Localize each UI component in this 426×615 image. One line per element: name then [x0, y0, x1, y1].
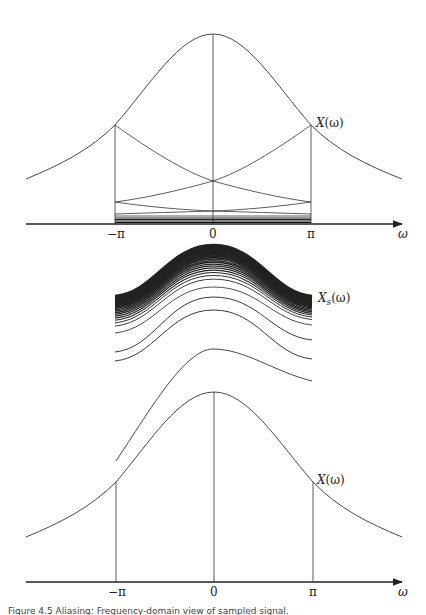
- middle-curve-label: Xs(ω): [317, 291, 350, 307]
- aliasing-figure: X(ω) −π 0 π ω Xs(ω) X(ω) −π 0 π ω Figure…: [0, 0, 426, 615]
- bottom-tick-pi: π: [309, 585, 317, 599]
- partial-sum-curve: [115, 310, 312, 361]
- bottom-axis-label: ω: [398, 585, 408, 599]
- top-panel: X(ω) −π 0 π ω: [26, 34, 408, 241]
- bottom-panel: X(ω) −π 0 π ω: [26, 392, 408, 599]
- top-tick-zero: 0: [209, 227, 217, 241]
- middle-panel: [115, 245, 312, 461]
- top-axis-label: ω: [398, 227, 408, 241]
- figure-caption: Figure 4.5 Aliasing: Frequency-domain vi…: [8, 606, 289, 615]
- bottom-tick-zero: 0: [210, 585, 218, 599]
- top-bell-curve: [26, 34, 402, 179]
- bottom-tick-neg-pi: −π: [108, 585, 126, 599]
- top-tick-neg-pi: −π: [107, 227, 125, 241]
- bottom-curve-label: X(ω): [316, 473, 345, 487]
- top-curve-label: X(ω): [315, 116, 344, 130]
- top-tick-pi: π: [307, 227, 315, 241]
